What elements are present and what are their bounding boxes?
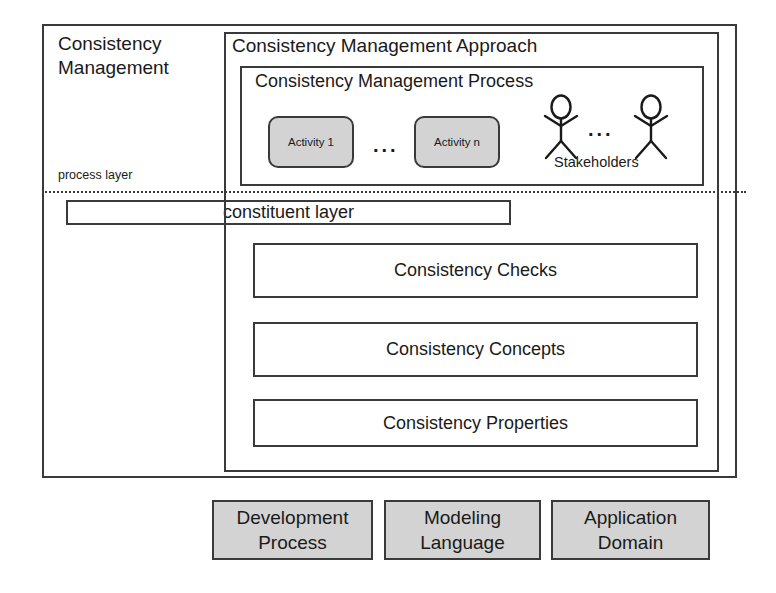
application-domain-box: Application Domain (551, 500, 710, 560)
development-process-line-1: Development (237, 505, 349, 530)
consistency-properties-box: Consistency Properties (253, 399, 698, 447)
activity-ellipsis: ... (373, 135, 399, 155)
diagram-canvas: Consistency Management process layer con… (0, 0, 776, 593)
consistency-management-title: Consistency Management (58, 32, 218, 80)
consistency-checks-box: Consistency Checks (253, 243, 698, 298)
activity-box-n: Activity n (414, 116, 500, 168)
consistency-concepts-box: Consistency Concepts (253, 322, 698, 377)
modeling-language-box: Modeling Language (384, 500, 541, 560)
process-layer-label: process layer (58, 168, 132, 182)
stakeholders-label: Stakeholders (554, 154, 639, 170)
application-domain-line-1: Application (584, 505, 677, 530)
application-domain-line-2: Domain (598, 530, 663, 555)
consistency-management-approach-title: Consistency Management Approach (232, 34, 537, 58)
activity-box-1: Activity 1 (268, 116, 354, 168)
modeling-language-line-1: Modeling (424, 505, 501, 530)
stakeholder-ellipsis: ... (588, 119, 614, 139)
development-process-line-2: Process (258, 530, 327, 555)
development-process-box: Development Process (212, 500, 373, 560)
modeling-language-line-2: Language (420, 530, 505, 555)
consistency-management-process-title: Consistency Management Process (255, 70, 533, 93)
